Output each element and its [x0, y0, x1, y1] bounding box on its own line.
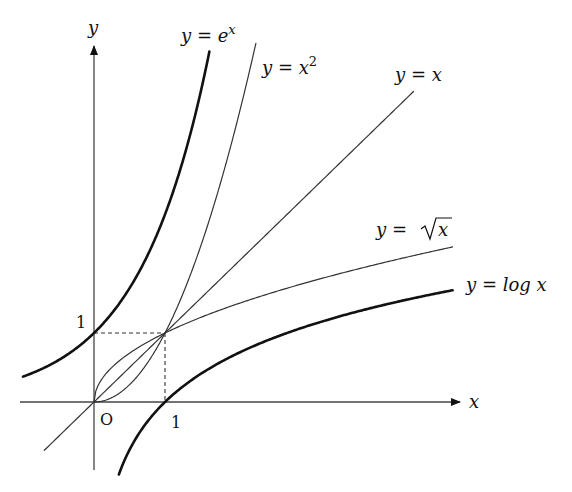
- label-exp-sup: x: [228, 22, 236, 37]
- label-sqrt-rad: x: [438, 219, 448, 240]
- curve-square: [94, 43, 256, 402]
- label-square-main: y = x: [261, 57, 309, 78]
- curve-exp: [23, 52, 209, 377]
- function-graphs-diagram: y x O 1 1 y = ex y = x2 y = x y = x y = …: [0, 0, 572, 492]
- y-tick-label-1: 1: [76, 313, 86, 332]
- curve-log: [119, 290, 453, 474]
- label-sqrt: y = x: [375, 218, 452, 240]
- label-identity: y = x: [394, 64, 442, 85]
- origin-label: O: [100, 410, 113, 429]
- label-exp-main: y = e: [180, 25, 228, 46]
- x-tick-label-1: 1: [171, 413, 181, 432]
- label-exp: y = ex: [180, 22, 236, 46]
- label-square: y = x2: [261, 54, 317, 78]
- label-square-sup: 2: [309, 54, 317, 69]
- curve-identity: [44, 92, 413, 451]
- label-sqrt-main: y =: [375, 219, 407, 240]
- label-log: y = log x: [465, 274, 547, 295]
- x-axis-label: x: [469, 391, 479, 412]
- curve-sqrt: [94, 247, 453, 402]
- curves: [23, 43, 453, 474]
- y-axis-label: y: [87, 17, 99, 38]
